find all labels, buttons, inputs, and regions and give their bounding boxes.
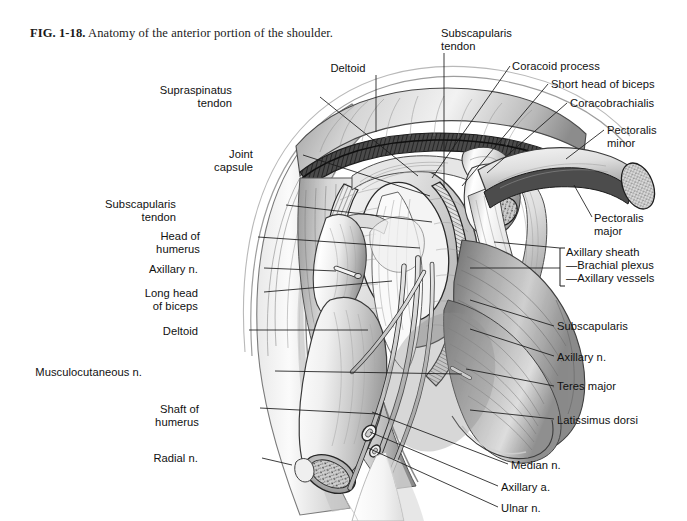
label-short-head-of-biceps: Short head of biceps [551, 78, 655, 91]
label-head-of-humerus: Head of humerus [156, 230, 200, 255]
label-shaft-of-humerus: Shaft of humerus [155, 403, 199, 428]
label-axillary-n-left: Axillary n. [149, 263, 198, 276]
label-coracobrachialis: Coracobrachialis [570, 97, 654, 110]
label-brachial-plexus: —Brachial plexus [566, 259, 654, 272]
label-musculocutaneous-n: Musculocutaneous n. [35, 366, 142, 379]
label-subscapularis-tendon-top: Subscapularis tendon [441, 27, 512, 52]
label-subscapularis: Subscapularis [557, 320, 628, 333]
label-pectoralis-major: Pectoralis major [594, 212, 644, 237]
label-latissimus-dorsi: Latissimus dorsi [557, 414, 638, 427]
label-deltoid-left: Deltoid [163, 325, 198, 338]
label-axillary-a: Axillary a. [501, 481, 550, 494]
label-ulnar-n: Ulnar n. [501, 502, 541, 515]
label-axillary-vessels: —Axillary vessels [566, 272, 655, 285]
label-axillary-sheath: Axillary sheath [566, 246, 640, 259]
label-deltoid-top: Deltoid [330, 62, 365, 75]
label-radial-n: Radial n. [153, 452, 198, 465]
label-long-head-of-biceps: Long head of biceps [145, 287, 198, 312]
label-axillary-n-right: Axillary n. [557, 351, 606, 364]
label-pectoralis-minor: Pectoralis minor [607, 124, 657, 149]
label-supraspinatus-tendon: Supraspinatus tendon [160, 84, 232, 109]
figure-page: FIG. 1-18. Anatomy of the anterior porti… [0, 0, 687, 521]
label-joint-capsule: Joint capsule [214, 148, 253, 173]
label-median-n: Median n. [511, 459, 561, 472]
label-teres-major: Teres major [557, 380, 616, 393]
label-coracoid-process: Coracoid process [512, 60, 600, 73]
label-subscapularis-tendon-left: Subscapularis tendon [105, 198, 176, 223]
